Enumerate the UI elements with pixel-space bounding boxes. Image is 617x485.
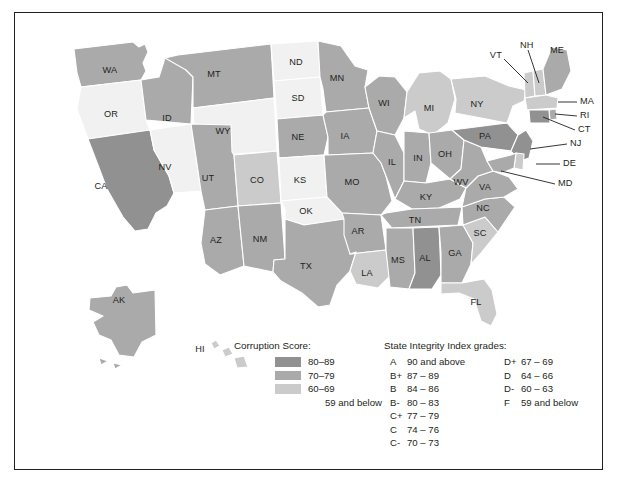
legend-grade-key: F	[504, 397, 521, 408]
legend-grade-row: B+87 – 89	[390, 369, 465, 383]
callout-label-NH: NH	[520, 40, 534, 50]
label-LA: LA	[361, 268, 373, 278]
label-UT: UT	[202, 173, 215, 183]
legend-swatch	[275, 384, 301, 394]
legend-grade-key: C	[390, 424, 407, 435]
legend-grade-row: D64 – 66	[504, 369, 578, 383]
state-HI-2[interactable]	[222, 347, 233, 357]
callout-label-MD: MD	[558, 178, 573, 188]
label-AR: AR	[351, 226, 364, 236]
map-legend: Corruption Score: 80–8970–7960–6959 and …	[234, 340, 594, 440]
label-AK: AK	[113, 295, 126, 305]
state-UT[interactable]	[191, 124, 238, 210]
legend-grade-range: 70 – 73	[407, 437, 439, 448]
legend-score-label: 70–79	[308, 370, 382, 381]
label-NM: NM	[253, 234, 268, 244]
label-AL: AL	[419, 253, 431, 263]
legend-grade-key: B-	[390, 397, 407, 408]
label-WV: WV	[453, 177, 469, 187]
state-CT[interactable]	[529, 110, 550, 123]
label-ID: ID	[162, 113, 172, 123]
label-HI: HI	[195, 344, 205, 354]
state-FL[interactable]	[441, 279, 497, 326]
state-HI[interactable]	[211, 340, 220, 349]
label-CA: CA	[94, 181, 108, 191]
legend-swatch	[275, 371, 301, 381]
label-CO: CO	[250, 175, 264, 185]
legend-score-row: 80–89	[234, 355, 382, 369]
label-WA: WA	[103, 65, 119, 75]
legend-grade-row: D-60 – 63	[504, 382, 578, 396]
legend-grades-column-2: D+67 – 69D64 – 66D-60 – 63F59 and below	[504, 355, 578, 409]
legend-swatch	[292, 398, 318, 408]
label-OK: OK	[299, 206, 313, 216]
legend-grade-range: 87 – 89	[407, 370, 439, 381]
legend-grade-key: D-	[504, 383, 521, 394]
leader-NJ	[530, 144, 567, 149]
legend-grade-key: C-	[390, 437, 407, 448]
legend-grade-key: C+	[390, 410, 407, 421]
label-NC: NC	[476, 203, 490, 213]
label-TN: TN	[409, 215, 422, 225]
legend-grade-row: B-80 – 83	[390, 396, 465, 410]
callout-label-NJ: NJ	[570, 138, 582, 148]
label-OH: OH	[438, 149, 452, 159]
label-IN: IN	[413, 153, 423, 163]
label-IL: IL	[388, 157, 396, 167]
figure-frame: WA OR CA NV ID MT WY UT CO AZ NM ND SD N…	[14, 12, 603, 470]
state-TN[interactable]	[381, 207, 462, 228]
legend-grade-key: D+	[504, 356, 521, 367]
label-WI: WI	[378, 98, 390, 108]
label-IA: IA	[340, 131, 350, 141]
label-AZ: AZ	[210, 235, 222, 245]
state-AK-islands	[99, 358, 122, 369]
label-SD: SD	[291, 93, 304, 103]
legend-score-section: Corruption Score: 80–8970–7960–6959 and …	[234, 340, 382, 409]
legend-grade-row: D+67 – 69	[504, 355, 578, 369]
leader-RI	[555, 114, 577, 116]
label-GA: GA	[448, 248, 462, 258]
callout-label-VT: VT	[490, 50, 502, 60]
label-VA: VA	[479, 182, 492, 192]
legend-grade-key: B+	[390, 370, 407, 381]
legend-score-label: 59 and below	[325, 397, 382, 408]
label-MN: MN	[330, 73, 345, 83]
state-AZ[interactable]	[201, 206, 244, 275]
callout-label-MA: MA	[580, 96, 595, 106]
legend-grade-key: B	[390, 383, 407, 394]
label-TX: TX	[300, 261, 312, 271]
legend-swatch	[275, 357, 301, 367]
legend-grades-section: State Integrity Index grades: A90 and ab…	[384, 340, 596, 441]
callout-label-RI: RI	[580, 110, 590, 120]
label-KY: KY	[420, 192, 433, 202]
label-OR: OR	[104, 109, 118, 119]
callout-label-DE: DE	[563, 158, 576, 168]
label-MI: MI	[424, 103, 435, 113]
label-PA: PA	[479, 131, 492, 141]
legend-grade-range: 90 and above	[407, 356, 465, 367]
legend-score-label: 60–69	[308, 383, 382, 394]
legend-grade-range: 84 – 86	[407, 383, 439, 394]
callout-label-CT: CT	[578, 124, 591, 134]
legend-grade-key: A	[390, 356, 407, 367]
legend-grade-range: 74 – 76	[407, 424, 439, 435]
legend-score-title: Corruption Score:	[234, 340, 382, 351]
legend-grade-range: 80 – 83	[407, 397, 439, 408]
label-MS: MS	[391, 255, 405, 265]
legend-grade-row: C+77 – 79	[390, 409, 465, 423]
label-FL: FL	[470, 297, 481, 307]
legend-grade-range: 59 and below	[521, 397, 578, 408]
label-WY: WY	[215, 126, 230, 136]
state-IA[interactable]	[323, 108, 377, 155]
label-NV: NV	[158, 162, 172, 172]
label-SC: SC	[473, 228, 486, 238]
legend-grade-range: 77 – 79	[407, 410, 439, 421]
state-shapes-group	[74, 41, 571, 369]
label-NY: NY	[470, 99, 483, 109]
label-MT: MT	[207, 69, 221, 79]
legend-score-row: 70–79	[234, 369, 382, 383]
state-NY[interactable]	[451, 76, 526, 123]
state-MA[interactable]	[525, 95, 558, 110]
legend-score-row: 59 and below	[234, 396, 382, 410]
legend-grade-row: B84 – 86	[390, 382, 465, 396]
